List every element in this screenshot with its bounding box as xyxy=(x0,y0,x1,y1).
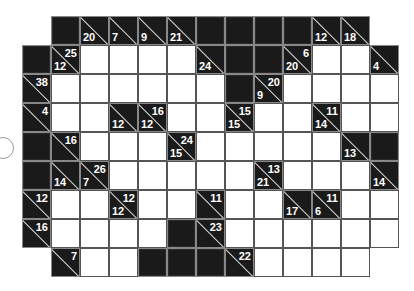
clue-cell: 116 xyxy=(312,190,341,219)
across-sum: 7 xyxy=(71,251,77,262)
clue-cell: 21 xyxy=(167,16,196,45)
entry-cell[interactable] xyxy=(109,161,138,190)
entry-cell[interactable] xyxy=(109,74,138,103)
down-sum: 20 xyxy=(83,32,95,43)
entry-cell[interactable] xyxy=(80,219,109,248)
across-sum: 11 xyxy=(210,193,222,204)
across-sum: 26 xyxy=(94,164,106,175)
across-sum: 12 xyxy=(36,193,48,204)
entry-cell[interactable] xyxy=(51,219,80,248)
down-sum: 12 xyxy=(54,61,66,72)
clue-cell: 22 xyxy=(225,248,254,277)
entry-cell[interactable] xyxy=(167,74,196,103)
entry-cell[interactable] xyxy=(341,219,370,248)
entry-cell[interactable] xyxy=(109,132,138,161)
down-sum: 12 xyxy=(141,119,153,130)
down-sum: 21 xyxy=(257,177,269,188)
across-sum: 11 xyxy=(326,106,338,117)
clue-cell: 1114 xyxy=(312,103,341,132)
clue-cell: 14 xyxy=(51,161,80,190)
entry-cell[interactable] xyxy=(341,74,370,103)
entry-cell[interactable] xyxy=(109,45,138,74)
entry-cell[interactable] xyxy=(167,45,196,74)
clue-cell: 7 xyxy=(51,248,80,277)
entry-cell[interactable] xyxy=(138,132,167,161)
entry-cell[interactable] xyxy=(254,248,283,277)
clue-cell: 13 xyxy=(341,132,370,161)
entry-cell[interactable] xyxy=(138,190,167,219)
entry-cell[interactable] xyxy=(196,74,225,103)
entry-cell[interactable] xyxy=(225,132,254,161)
across-sum: 16 xyxy=(65,135,77,146)
entry-cell[interactable] xyxy=(254,219,283,248)
entry-cell[interactable] xyxy=(341,161,370,190)
entry-cell[interactable] xyxy=(138,74,167,103)
blocked-cell xyxy=(51,16,80,45)
down-sum: 6 xyxy=(315,206,321,217)
entry-cell[interactable] xyxy=(51,190,80,219)
across-sum: 23 xyxy=(210,222,222,233)
clue-cell: 18 xyxy=(341,16,370,45)
down-sum: 14 xyxy=(373,177,385,188)
entry-cell[interactable] xyxy=(312,248,341,277)
entry-cell[interactable] xyxy=(167,103,196,132)
entry-cell[interactable] xyxy=(138,219,167,248)
entry-cell[interactable] xyxy=(283,132,312,161)
across-sum: 22 xyxy=(239,251,251,262)
entry-cell[interactable] xyxy=(80,248,109,277)
entry-cell[interactable] xyxy=(254,103,283,132)
entry-cell[interactable] xyxy=(254,132,283,161)
entry-cell[interactable] xyxy=(341,103,370,132)
clue-cell: 14 xyxy=(370,161,399,190)
entry-cell[interactable] xyxy=(370,103,399,132)
blocked-cell xyxy=(22,132,51,161)
entry-cell[interactable] xyxy=(138,45,167,74)
entry-cell[interactable] xyxy=(254,190,283,219)
blocked-cell xyxy=(167,219,196,248)
down-sum: 4 xyxy=(373,61,379,72)
across-sum: 15 xyxy=(239,106,251,117)
entry-cell[interactable] xyxy=(225,219,254,248)
entry-cell[interactable] xyxy=(312,132,341,161)
entry-cell[interactable] xyxy=(109,248,138,277)
entry-cell[interactable] xyxy=(196,103,225,132)
entry-cell[interactable] xyxy=(51,103,80,132)
blocked-cell xyxy=(22,161,51,190)
blocked-cell xyxy=(370,132,399,161)
clue-cell: 11 xyxy=(196,190,225,219)
clue-cell: 16 xyxy=(22,219,51,248)
entry-cell[interactable] xyxy=(341,45,370,74)
across-sum: 11 xyxy=(326,193,338,204)
entry-cell[interactable] xyxy=(80,45,109,74)
entry-cell[interactable] xyxy=(225,161,254,190)
entry-cell[interactable] xyxy=(225,190,254,219)
entry-cell[interactable] xyxy=(80,74,109,103)
entry-cell[interactable] xyxy=(370,219,399,248)
entry-cell[interactable] xyxy=(80,132,109,161)
entry-cell[interactable] xyxy=(312,219,341,248)
entry-cell[interactable] xyxy=(283,161,312,190)
entry-cell[interactable] xyxy=(312,74,341,103)
entry-cell[interactable] xyxy=(283,248,312,277)
down-sum: 12 xyxy=(315,32,327,43)
entry-cell[interactable] xyxy=(196,161,225,190)
entry-cell[interactable] xyxy=(167,190,196,219)
entry-cell[interactable] xyxy=(312,45,341,74)
entry-cell[interactable] xyxy=(167,161,196,190)
entry-cell[interactable] xyxy=(80,190,109,219)
entry-cell[interactable] xyxy=(312,161,341,190)
entry-cell[interactable] xyxy=(109,219,138,248)
entry-cell[interactable] xyxy=(341,248,370,277)
entry-cell[interactable] xyxy=(51,74,80,103)
clue-cell: 12 xyxy=(22,190,51,219)
down-sum: 21 xyxy=(170,32,182,43)
entry-cell[interactable] xyxy=(196,132,225,161)
entry-cell[interactable] xyxy=(370,190,399,219)
entry-cell[interactable] xyxy=(283,74,312,103)
entry-cell[interactable] xyxy=(138,161,167,190)
entry-cell[interactable] xyxy=(370,74,399,103)
entry-cell[interactable] xyxy=(341,190,370,219)
entry-cell[interactable] xyxy=(80,103,109,132)
entry-cell[interactable] xyxy=(283,219,312,248)
entry-cell[interactable] xyxy=(283,103,312,132)
